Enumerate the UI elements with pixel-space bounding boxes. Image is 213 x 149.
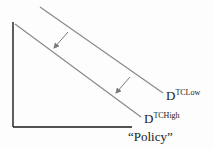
label-superscript: TCLow — [175, 88, 200, 97]
label-d: D — [166, 88, 175, 103]
label-d-tclow: DTCLow — [166, 86, 200, 104]
shift-arrow-1 — [54, 32, 68, 48]
label-d-tchigh: DTCHigh — [144, 109, 180, 127]
label-superscript: TCHigh — [153, 111, 179, 120]
demand-curve-tclow — [40, 7, 163, 93]
label-d: D — [144, 111, 153, 126]
x-axis-label: “Policy” — [128, 129, 173, 145]
shift-arrow-2 — [116, 77, 130, 93]
diagram-graphics — [0, 0, 213, 149]
demand-curve-tchigh — [15, 24, 141, 117]
diagram-canvas: DTCLow DTCHigh “Policy” — [0, 0, 213, 149]
